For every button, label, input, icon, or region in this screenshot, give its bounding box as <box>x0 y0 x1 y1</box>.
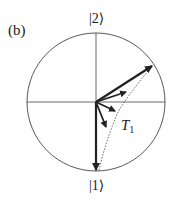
time-label-sub: 1 <box>129 124 134 135</box>
time-label: T1 <box>121 117 134 135</box>
panel-label: (b) <box>8 22 26 39</box>
state-label-top: |2⟩ <box>89 11 104 26</box>
state-label-bottom: |1⟩ <box>89 178 104 193</box>
state-vector-initial <box>96 66 152 102</box>
bloch-circle-diagram: (b) |2⟩ |1⟩ T1 <box>0 0 170 202</box>
